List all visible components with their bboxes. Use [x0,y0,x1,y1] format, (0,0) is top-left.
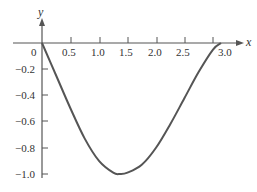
chart: y x 0 0.5 1.0 1.5 2.0 2.5 3.0 −0.2 −0.4 … [0,0,257,192]
x-tick-label: 2.0 [148,46,162,58]
x-tick-label: 1.0 [91,46,105,58]
x-ticks [71,37,213,43]
y-axis-arrow-icon [39,18,45,26]
y-tick-label: −0.4 [15,89,35,101]
data-curve [42,43,221,174]
y-ticks [42,69,48,174]
origin-label: 0 [31,46,37,58]
x-tick-label: 1.5 [119,46,133,58]
y-tick-label: −1.0 [15,168,35,180]
y-axis-label: y [37,5,44,19]
y-tick-label: −0.8 [15,142,35,154]
y-tick-label: −0.6 [15,115,35,127]
x-tick-label: 0.5 [62,46,76,58]
x-tick-label: 2.5 [176,46,190,58]
x-axis-arrow-icon [236,40,244,46]
y-tick-label: −0.2 [15,63,35,75]
x-axis-label: x [245,35,252,49]
x-tick-label: 3.0 [218,46,232,58]
